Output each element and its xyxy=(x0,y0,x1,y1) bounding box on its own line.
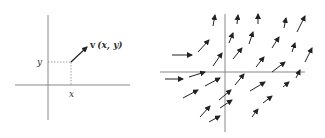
field-arrow xyxy=(292,43,295,52)
field-arrow xyxy=(183,90,198,98)
field-arrow xyxy=(252,109,258,117)
field-arrow xyxy=(235,74,244,85)
field-arrow xyxy=(296,70,300,78)
field-arrow xyxy=(200,106,210,117)
field-arrow xyxy=(189,72,205,77)
y-label: y xyxy=(36,57,43,67)
field-arrow xyxy=(305,48,312,62)
vector-field-diagram: v(x, y) y x xyxy=(0,0,325,138)
field-arrow xyxy=(256,57,264,67)
field-arrow xyxy=(229,33,233,43)
vector-arrow xyxy=(71,47,87,62)
field-arrow xyxy=(272,62,285,72)
vector-field-panel xyxy=(160,14,312,132)
field-arrow xyxy=(220,100,232,108)
field-arrow xyxy=(209,116,220,122)
field-arrow xyxy=(237,15,238,24)
x-label: x xyxy=(69,89,74,99)
single-vector-panel xyxy=(15,15,130,120)
field-arrow xyxy=(284,18,286,28)
field-arrow xyxy=(233,48,242,59)
field-arrow xyxy=(249,32,253,44)
vector-label: v(x, y) xyxy=(89,40,123,51)
field-arrow xyxy=(283,82,289,87)
field-arrow xyxy=(250,82,265,91)
field-arrow xyxy=(205,78,220,86)
field-arrow xyxy=(213,15,215,26)
field-arrow xyxy=(263,96,272,103)
field-arrow xyxy=(272,37,279,48)
field-arrow xyxy=(297,16,305,32)
field-arrow xyxy=(213,53,222,66)
field-arrow xyxy=(198,40,209,52)
